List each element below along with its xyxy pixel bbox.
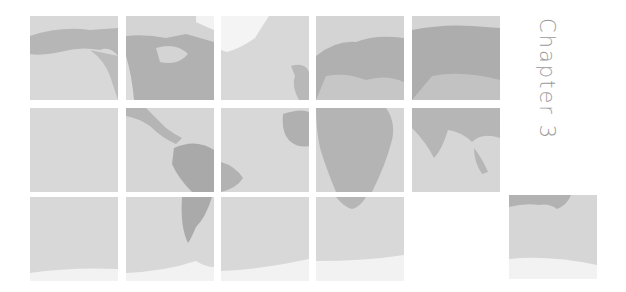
chapter-label: Chapter 3 [535, 18, 559, 140]
map-tile-north-america [126, 16, 214, 100]
map-tile-south-america-south [126, 197, 214, 281]
map-tile-north-pacific-alaska [30, 16, 118, 100]
map-tile-europe [316, 16, 404, 100]
map-tile-southern-africa [316, 197, 404, 281]
map-tile-india-se-asia [412, 108, 500, 192]
map-tile-siberia [412, 16, 500, 100]
map-tile-south-atlantic [221, 197, 309, 281]
map-tile-central-pacific [30, 108, 118, 192]
map-tile-south-pacific [30, 197, 118, 281]
map-tile-africa [316, 108, 404, 192]
map-tile-australia [509, 195, 597, 279]
map-tile-west-africa [221, 108, 309, 192]
map-tile-greenland [221, 16, 309, 100]
chapter-heading: Chapter 3 [531, 18, 561, 158]
map-tile-central-south-america [126, 108, 214, 192]
